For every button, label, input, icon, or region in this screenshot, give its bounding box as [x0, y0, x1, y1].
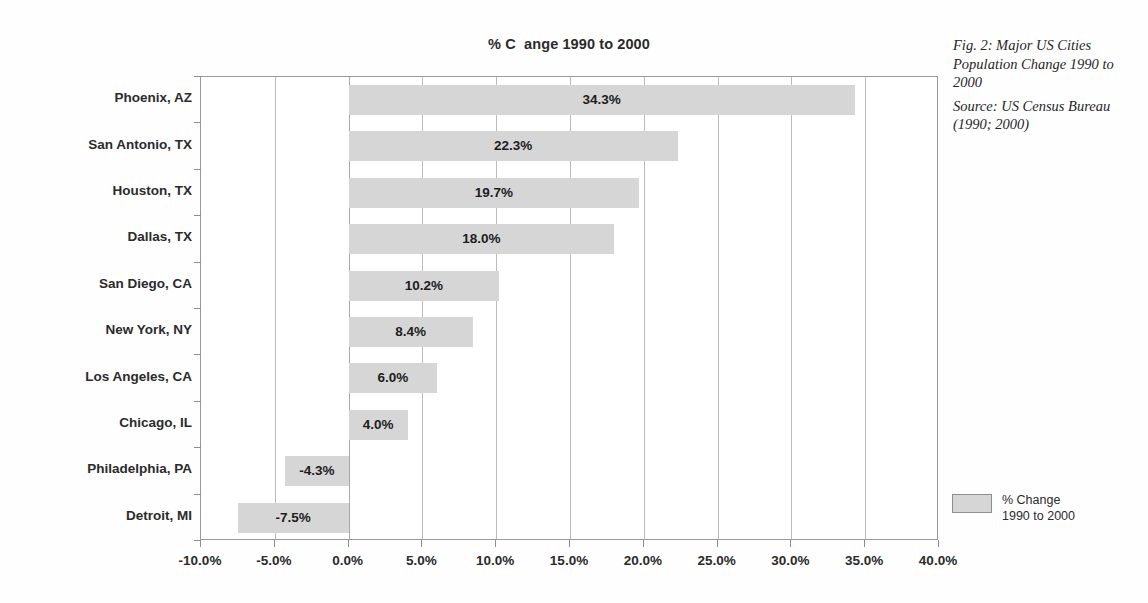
category-label-los-angeles-ca: Los Angeles, CA [12, 369, 192, 384]
chart-title: % C ange 1990 to 2000 [200, 36, 938, 52]
x-axis-tick [643, 540, 644, 547]
bar-band: 10.2% [201, 263, 937, 309]
x-axis-tick [569, 540, 570, 547]
bar-value-label: 10.2% [349, 271, 500, 301]
bar-band: 6.0% [201, 355, 937, 401]
bar-value-label: 6.0% [349, 363, 438, 393]
y-axis-tick [194, 76, 201, 77]
x-axis-tick [495, 540, 496, 547]
bar-band: -7.5% [201, 495, 937, 541]
figure-caption-source: Source: US Census Bureau (1990; 2000) [953, 97, 1138, 134]
x-axis-tick [864, 540, 865, 547]
category-label-philadelphia-pa: Philadelphia, PA [12, 461, 192, 476]
category-label-houston-tx: Houston, TX [12, 183, 192, 198]
y-axis-tick [194, 494, 201, 495]
legend-swatch-percent-change [952, 494, 992, 513]
bar-value-label: -7.5% [238, 503, 349, 533]
x-axis-tick-label: 40.0% [893, 553, 983, 568]
bar-value-label: 4.0% [349, 410, 408, 440]
x-axis-tick [938, 540, 939, 547]
y-axis-tick [194, 401, 201, 402]
bar-band: 4.0% [201, 402, 937, 448]
plot-area: 34.3%22.3%19.7%18.0%10.2%8.4%6.0%4.0%-4.… [200, 76, 938, 540]
y-axis-tick [194, 447, 201, 448]
category-label-chicago-il: Chicago, IL [12, 415, 192, 430]
figure-caption-title: Fig. 2: Major US Cities Population Chang… [953, 36, 1138, 92]
bar-value-label: 19.7% [349, 178, 640, 208]
bar-band: 18.0% [201, 216, 937, 262]
category-label-dallas-tx: Dallas, TX [12, 229, 192, 244]
bar-band: 8.4% [201, 309, 937, 355]
x-axis-tick [421, 540, 422, 547]
x-axis-tick [790, 540, 791, 547]
x-axis-tick [348, 540, 349, 547]
legend-label: % Change 1990 to 2000 [1002, 492, 1075, 524]
bar-value-label: 22.3% [349, 131, 678, 161]
category-label-san-diego-ca: San Diego, CA [12, 276, 192, 291]
category-label-detroit-mi: Detroit, MI [12, 508, 192, 523]
figure-caption: Fig. 2: Major US Cities Population Chang… [953, 36, 1138, 134]
category-label-phoenix-az: Phoenix, AZ [12, 90, 192, 105]
y-axis-tick [194, 169, 201, 170]
y-axis-tick [194, 354, 201, 355]
legend-label-line2: 1990 to 2000 [1002, 508, 1075, 524]
chart-legend: % Change 1990 to 2000 [952, 492, 1075, 524]
bar-value-label: 8.4% [349, 317, 473, 347]
y-axis-tick [194, 215, 201, 216]
bar-value-label: 34.3% [349, 85, 855, 115]
scanned-page: % C ange 1990 to 2000 Phoenix, AZSan Ant… [0, 0, 1148, 603]
category-label-san-antonio-tx: San Antonio, TX [12, 137, 192, 152]
category-label-new-york-ny: New York, NY [12, 322, 192, 337]
y-axis-tick [194, 308, 201, 309]
y-axis-tick [194, 122, 201, 123]
bar-band: -4.3% [201, 448, 937, 494]
bar-value-label: -4.3% [285, 456, 348, 486]
bar-band: 19.7% [201, 170, 937, 216]
x-axis-tick [274, 540, 275, 547]
y-axis-tick [194, 262, 201, 263]
legend-label-line1: % Change [1002, 492, 1075, 508]
x-axis-tick [717, 540, 718, 547]
bar-band: 22.3% [201, 123, 937, 169]
x-axis-tick [200, 540, 201, 547]
bar-value-label: 18.0% [349, 224, 615, 254]
bar-band: 34.3% [201, 77, 937, 123]
category-axis-labels: Phoenix, AZSan Antonio, TXHouston, TXDal… [10, 76, 192, 540]
